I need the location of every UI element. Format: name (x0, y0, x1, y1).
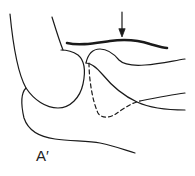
thick-bar (67, 40, 167, 48)
upper-contour (52, 17, 63, 50)
arrow-head-icon (119, 29, 125, 37)
figure-label: A′ (36, 148, 49, 163)
line-diagram (0, 0, 195, 176)
dashed-curve-continuation (140, 93, 185, 101)
outer-contour (10, 14, 84, 108)
dashed-curve (89, 63, 140, 117)
upper-right-curve (86, 49, 185, 65)
lower-contour (22, 88, 135, 153)
